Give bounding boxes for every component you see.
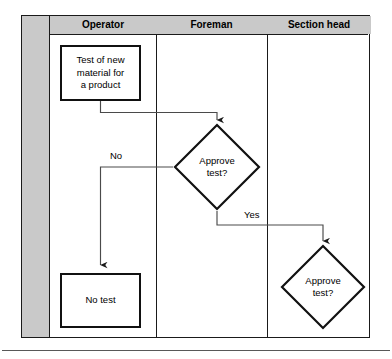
lane-spine-column — [22, 16, 50, 337]
decision-node-approve-test-section-head[interactable]: Approve test? — [280, 244, 366, 330]
lane-header-section-head: Section head — [267, 16, 371, 34]
page-bottom-rule — [2, 350, 390, 351]
connector-decision1-no — [101, 167, 174, 265]
lane-header-operator: Operator — [50, 16, 156, 34]
edge-label-no: No — [110, 150, 122, 161]
swimlane-diagram: Operator Foreman Section head — [21, 15, 370, 338]
connector-decision1-yes — [217, 211, 323, 241]
lane-divider-foreman-section-head — [267, 35, 268, 337]
diamond-shape — [280, 244, 366, 330]
diamond-shape — [173, 123, 261, 211]
decision-node-approve-test-foreman[interactable]: Approve test? — [173, 123, 261, 211]
lane-header-foreman: Foreman — [156, 16, 267, 34]
lane-divider-operator-foreman — [156, 35, 157, 337]
process-node-test-new-material[interactable]: Test of new material for a product — [60, 45, 141, 101]
process-node-no-test[interactable]: No test — [60, 273, 141, 328]
edge-label-yes: Yes — [244, 209, 260, 220]
connector-start-to-decision1 — [101, 101, 218, 120]
diagram-page: Operator Foreman Section head — [0, 0, 392, 359]
